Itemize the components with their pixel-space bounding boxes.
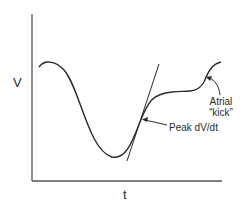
peak-arrow [145,120,167,125]
peak-arrowhead-icon [142,117,148,122]
x-axis-label: t [123,187,127,202]
waveform-diagram [0,0,244,210]
tangent-line [127,64,159,161]
atrial-arrow [209,78,220,95]
atrial-kick-label: Atrial “kick” [209,96,233,118]
atrial-kick-line2: “kick” [209,107,233,118]
atrial-kick-line1: Atrial [209,96,233,107]
waveform-curve [39,62,221,157]
peak-dvdt-label: Peak dV/dt [169,122,218,133]
y-axis-label: V [13,75,22,90]
